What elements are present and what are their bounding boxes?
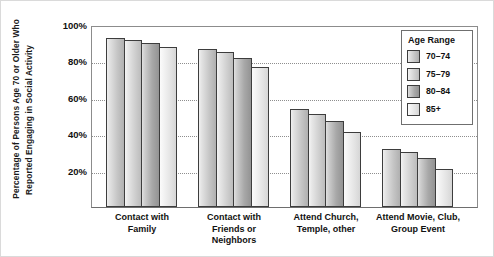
legend: Age Range 70–7475–7980–8485+ <box>401 30 473 125</box>
legend-swatch-icon <box>407 103 420 116</box>
bar <box>308 114 327 207</box>
x-axis-category-labels: Contact withFamilyContact withFriends or… <box>91 212 478 257</box>
bar <box>233 58 252 207</box>
bar <box>290 109 309 207</box>
legend-item[interactable]: 70–74 <box>407 49 468 64</box>
y-axis-tick-label: 80% <box>43 57 87 67</box>
legend-item[interactable]: 85+ <box>407 102 468 117</box>
x-axis-category-label: Attend Movie, Club,Group Event <box>368 212 468 235</box>
bar <box>325 121 344 207</box>
legend-item-label: 75–79 <box>426 70 450 79</box>
legend-items: 70–7475–7980–8485+ <box>407 49 468 117</box>
y-axis-tick-label: 100% <box>43 21 87 31</box>
y-axis-title-line-1: Percentage of Persons Age 70 or Older Wh… <box>12 19 20 199</box>
bar <box>251 67 270 207</box>
y-axis-tick-label: 20% <box>43 167 87 177</box>
legend-swatch-icon <box>407 50 420 63</box>
bar <box>382 149 401 207</box>
x-axis-category-label: Contact withFriends orNeighbors <box>184 212 284 247</box>
legend-item[interactable]: 75–79 <box>407 67 468 82</box>
y-axis-tick-labels: 20%40%60%80%100% <box>41 1 87 257</box>
bar-group <box>106 25 180 207</box>
bar <box>216 52 235 207</box>
bar <box>106 38 125 207</box>
bar <box>343 132 362 207</box>
chart-figure: Percentage of Persons Age 70 or Older Wh… <box>0 0 494 257</box>
y-axis-title-line-2: Reported Engaging in Social Activity <box>25 45 33 195</box>
x-axis-category-label: Attend Church,Temple, other <box>276 212 376 235</box>
legend-swatch-icon <box>407 68 420 81</box>
legend-title: Age Range <box>408 35 468 45</box>
legend-item[interactable]: 80–84 <box>407 84 468 99</box>
y-axis-tick-label: 40% <box>43 130 87 140</box>
legend-item-label: 70–74 <box>426 52 450 61</box>
bar <box>141 43 160 207</box>
y-axis-tick-label: 60% <box>43 94 87 104</box>
bar <box>124 40 143 207</box>
bar <box>159 47 178 207</box>
bar-group <box>198 25 272 207</box>
bar <box>198 49 217 207</box>
legend-item-label: 80–84 <box>426 87 450 96</box>
bar <box>435 169 454 207</box>
bar <box>400 152 419 207</box>
bar <box>417 158 436 207</box>
legend-item-label: 85+ <box>426 105 441 114</box>
bar-group <box>290 25 364 207</box>
legend-swatch-icon <box>407 85 420 98</box>
x-axis-category-label: Contact withFamily <box>92 212 192 235</box>
